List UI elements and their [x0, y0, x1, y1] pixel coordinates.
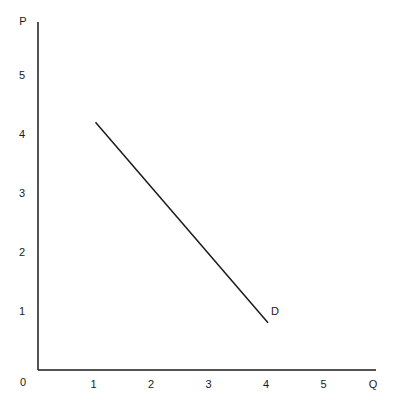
x-tick-labels: 12345: [90, 378, 326, 390]
demand-chart: P Q 0 12345 12345 D: [0, 0, 397, 405]
x-tick-label: 1: [90, 378, 96, 390]
y-tick-label: 1: [19, 305, 25, 317]
series-label: D: [271, 305, 279, 317]
x-tick-label: 3: [205, 378, 211, 390]
demand-curve-D: [96, 122, 269, 323]
origin-label: 0: [20, 376, 26, 388]
y-tick-label: 5: [19, 69, 25, 81]
x-tick-label: 2: [148, 378, 154, 390]
x-tick-label: 4: [263, 378, 269, 390]
series-group: D: [96, 122, 280, 323]
x-axis-label: Q: [369, 378, 378, 390]
x-tick-label: 5: [320, 378, 326, 390]
y-axis-label: P: [19, 15, 26, 27]
y-tick-label: 4: [19, 128, 25, 140]
y-tick-label: 2: [19, 246, 25, 258]
y-tick-labels: 12345: [19, 69, 25, 317]
y-tick-label: 3: [19, 187, 25, 199]
